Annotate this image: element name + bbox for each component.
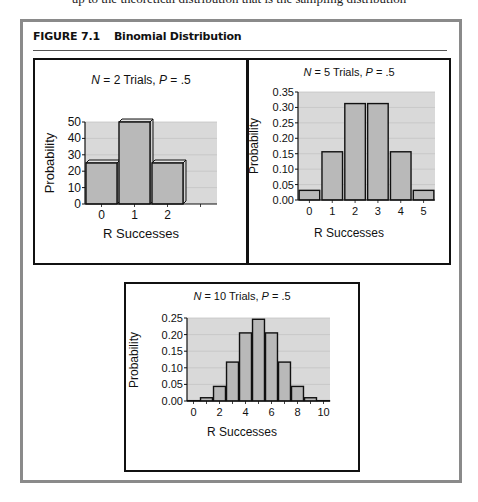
chart-title: N = 2 Trials, P = .5 <box>91 73 191 87</box>
bar <box>227 362 239 401</box>
bar <box>279 362 291 401</box>
y-tick-label: 0.35 <box>273 86 294 98</box>
x-tick-label: 1 <box>131 208 138 222</box>
y-axis-label: Probability <box>249 118 261 174</box>
bar-chart-n2: N = 2 Trials, P = .501020304050012Probab… <box>35 60 248 263</box>
x-tick-label: 1 <box>329 205 335 217</box>
plot-area <box>298 92 435 200</box>
x-axis-label: R Successes <box>207 425 277 439</box>
y-tick-label: 0.10 <box>273 163 294 175</box>
y-tick-label: 40 <box>68 131 82 145</box>
y-axis-label: Probability <box>127 332 141 388</box>
x-tick-label: 2 <box>216 406 222 418</box>
x-tick-label: 2 <box>352 205 358 217</box>
chart-title: N = 10 Trials, P = .5 <box>193 290 290 302</box>
x-tick-label: 5 <box>421 205 427 217</box>
x-tick-label: 10 <box>317 406 329 418</box>
y-axis-label: Probability <box>42 132 57 193</box>
bar <box>253 319 265 401</box>
x-tick-label: 3 <box>375 205 381 217</box>
x-tick-label: 0 <box>306 205 312 217</box>
y-tick-label: 0.00 <box>162 395 183 407</box>
caption-divider <box>33 50 447 51</box>
figure-number: FIGURE 7.1 <box>33 30 100 43</box>
y-tick-label: 0.30 <box>273 101 294 113</box>
bar <box>299 190 320 200</box>
y-tick-label: 10 <box>68 181 82 195</box>
figure-title: Binomial Distribution <box>114 30 242 43</box>
y-tick-label: 30 <box>68 148 82 162</box>
figure-caption: FIGURE 7.1Binomial Distribution <box>33 30 242 43</box>
chart-panel-n5: N = 5 Trials, P = .50.000.050.100.150.20… <box>246 58 451 265</box>
y-tick-label: 0.15 <box>162 345 183 357</box>
bar-chart-n10: N = 10 Trials, P = .50.000.050.100.150.2… <box>126 284 358 470</box>
bar <box>345 104 366 200</box>
y-tick-label: 0.05 <box>273 179 294 191</box>
cut-off-body-text: up to the theoretical distribution that … <box>0 0 478 7</box>
y-tick-label: 0.25 <box>273 117 294 129</box>
bar <box>368 104 389 200</box>
chart-title: N = 5 Trials, P = .5 <box>303 66 394 78</box>
x-tick-label: 2 <box>164 208 171 222</box>
y-tick-label: 0.10 <box>162 362 183 374</box>
x-tick-label: 0 <box>98 208 105 222</box>
y-tick-label: 0.25 <box>162 312 183 324</box>
bar <box>390 152 411 200</box>
x-axis-label: R Successes <box>314 226 384 240</box>
bar <box>214 386 226 401</box>
y-tick-label: 0.00 <box>273 194 294 206</box>
y-tick-label: 50 <box>68 115 82 129</box>
x-tick-label: 4 <box>398 205 404 217</box>
bar-chart-n5: N = 5 Trials, P = .50.000.050.100.150.20… <box>249 60 449 263</box>
chart-panel-n10: N = 10 Trials, P = .50.000.050.100.150.2… <box>124 282 360 472</box>
x-tick-label: 4 <box>242 406 248 418</box>
bar <box>240 333 252 401</box>
bar <box>413 190 434 200</box>
bar <box>292 386 304 401</box>
bar <box>322 152 343 200</box>
y-tick-label: 0.05 <box>162 378 183 390</box>
bar <box>152 163 183 204</box>
bar <box>86 163 117 204</box>
x-tick-label: 8 <box>294 406 300 418</box>
y-tick-label: 20 <box>68 164 82 178</box>
bar <box>119 122 150 204</box>
y-tick-label: 0 <box>74 197 81 211</box>
x-axis-label: R Successes <box>103 226 179 241</box>
bar <box>266 333 278 401</box>
y-tick-label: 0.20 <box>273 132 294 144</box>
y-tick-label: 0.20 <box>162 329 183 341</box>
chart-panel-n2: N = 2 Trials, P = .501020304050012Probab… <box>33 58 248 265</box>
x-tick-label: 6 <box>268 406 274 418</box>
x-tick-label: 0 <box>190 406 196 418</box>
y-tick-label: 0.15 <box>273 148 294 160</box>
